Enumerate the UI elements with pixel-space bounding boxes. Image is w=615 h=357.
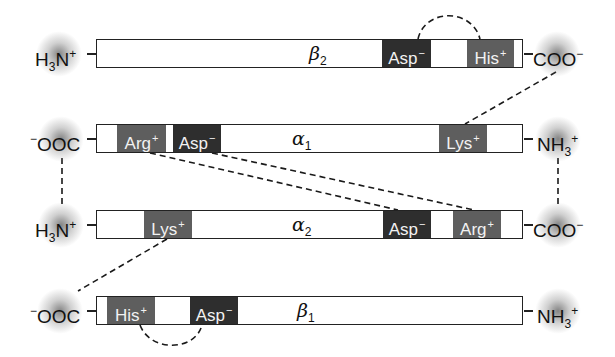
terminus-text: H — [35, 220, 49, 241]
terminus-charge: − — [30, 304, 37, 318]
chain-alpha2: Lys+ α2 Asp− Arg+ — [96, 210, 523, 239]
alpha1-c-terminus: −OOC — [30, 128, 80, 156]
beta2-n-terminus: H3N+ — [35, 43, 76, 78]
terminus-charge: + — [69, 218, 76, 232]
residue-charge: + — [500, 47, 506, 59]
chain-subscript: 2 — [320, 54, 327, 68]
chain-subscript: 1 — [308, 311, 315, 325]
terminus-sub: 3 — [564, 145, 571, 159]
chain-beta2: β2 Asp− His+ — [96, 39, 523, 68]
terminus-text: NH — [537, 306, 564, 327]
bond-tick — [87, 310, 96, 312]
alpha2-n-terminus: H3N+ — [35, 214, 76, 249]
terminus-charge: − — [576, 218, 583, 232]
residue-name: His — [115, 306, 140, 325]
bond-tick — [524, 310, 533, 312]
beta1-c-terminus: −OOC — [30, 300, 80, 328]
residue-charge: + — [141, 304, 147, 316]
residue-charge: + — [473, 132, 479, 144]
chain-greek: α — [292, 127, 305, 149]
beta2-coo-to-alpha1-lys — [465, 72, 556, 124]
residue-name: Asp — [179, 134, 208, 153]
bond-tick — [87, 53, 96, 55]
residue-charge: − — [209, 132, 215, 144]
residue-name: Asp — [389, 220, 418, 239]
chain-label: β1 — [297, 297, 315, 331]
residue-asp: Asp− — [383, 211, 431, 238]
residue-charge: − — [226, 304, 232, 316]
residue-name: Lys — [446, 134, 472, 153]
chain-subscript: 2 — [305, 225, 312, 239]
terminus-charge: + — [69, 47, 76, 61]
alpha1-arg-to-alpha2-asp — [150, 153, 398, 210]
bond-tick — [524, 53, 533, 55]
residue-his: His+ — [467, 40, 514, 67]
residue-lys: Lys+ — [144, 211, 192, 238]
residue-name: Lys — [151, 220, 177, 239]
residue-name: Asp — [196, 306, 225, 325]
chain-alpha1: Arg+ Asp− α1 Lys+ — [96, 124, 523, 153]
beta2-asp-his-arc — [418, 16, 480, 39]
chain-greek: α — [292, 213, 305, 235]
terminus-text: COO — [533, 49, 576, 70]
terminus-text: OOC — [37, 306, 80, 327]
terminus-text: COO — [533, 220, 576, 241]
beta1-his-asp-arc — [140, 325, 202, 345]
alpha1-n-terminus: NH3+ — [537, 128, 578, 163]
chain-subscript: 1 — [305, 139, 312, 153]
alpha2-c-terminus: COO− — [533, 214, 583, 242]
alpha2-lys-to-beta1-ooc — [78, 239, 167, 291]
residue-name: Arg — [125, 134, 151, 153]
residue-charge: − — [419, 218, 425, 230]
bond-tick — [524, 138, 533, 140]
beta2-c-terminus: COO− — [533, 43, 583, 71]
chain-label: β2 — [309, 40, 327, 74]
chain-beta1: His+ Asp− β1 — [96, 296, 523, 325]
residue-charge: + — [178, 218, 184, 230]
bond-tick — [524, 224, 533, 226]
residue-asp: Asp− — [382, 40, 431, 67]
residue-arg: Arg+ — [453, 211, 501, 238]
terminus-text: H — [35, 49, 49, 70]
residue-asp: Asp− — [190, 297, 238, 324]
residue-name: Arg — [460, 220, 486, 239]
residue-name: Asp — [388, 49, 417, 68]
chain-greek: β — [309, 42, 320, 64]
residue-name: His — [475, 49, 500, 68]
terminus-charge: + — [571, 304, 578, 318]
residue-lys: Lys+ — [439, 125, 487, 152]
bond-tick — [87, 138, 96, 140]
terminus-text: N — [55, 220, 69, 241]
chain-greek: β — [297, 299, 308, 321]
chain-label: α2 — [292, 211, 312, 245]
terminus-text: NH — [537, 134, 564, 155]
residue-charge: − — [418, 47, 424, 59]
residue-asp: Asp− — [173, 125, 221, 152]
terminus-text: N — [55, 49, 69, 70]
salt-bridge-diagram: H3N+ β2 Asp− His+ COO− −OOC Arg+ Asp− α1… — [0, 0, 615, 357]
residue-arg: Arg+ — [117, 125, 166, 152]
terminus-charge: + — [571, 132, 578, 146]
chain-label: α1 — [292, 125, 312, 159]
beta1-n-terminus: NH3+ — [537, 300, 578, 335]
alpha1-asp-to-alpha2-arg — [212, 153, 474, 210]
terminus-charge: − — [30, 132, 37, 146]
bond-tick — [87, 224, 96, 226]
terminus-sub: 3 — [564, 317, 571, 331]
terminus-text: OOC — [37, 134, 80, 155]
terminus-charge: − — [576, 47, 583, 61]
residue-charge: + — [152, 132, 158, 144]
residue-his: His+ — [107, 297, 155, 324]
residue-charge: + — [488, 218, 494, 230]
